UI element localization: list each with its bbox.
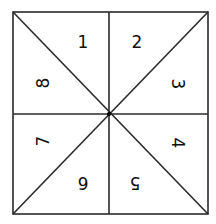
section-label-4: 4 (168, 138, 188, 149)
section-label-7: 7 (33, 136, 53, 147)
divided-square-diagram: 1 2 3 4 5 6 7 8 (0, 0, 216, 224)
section-label-3: 3 (168, 79, 188, 90)
section-label-2: 2 (132, 32, 143, 52)
section-label-1: 1 (78, 32, 89, 52)
section-label-5: 5 (130, 173, 141, 193)
section-label-6: 6 (78, 173, 89, 193)
center-point (107, 112, 111, 116)
section-label-8: 8 (33, 78, 53, 89)
